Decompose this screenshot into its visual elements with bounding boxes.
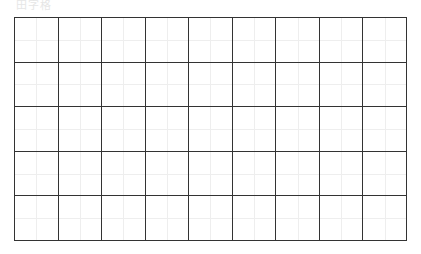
grid-cell (233, 18, 277, 63)
page-title: 田字格 (16, 0, 52, 12)
grid-cell (363, 152, 407, 197)
grid-cell (146, 196, 190, 241)
grid-cell (189, 107, 233, 152)
grid-cell (189, 63, 233, 108)
grid-cell (15, 196, 59, 241)
grid-cell (59, 196, 103, 241)
grid-cell (189, 18, 233, 63)
grid-cell (189, 196, 233, 241)
grid-cell (276, 152, 320, 197)
grid-cell (146, 107, 190, 152)
grid-cell (15, 152, 59, 197)
grid-cell (320, 107, 364, 152)
grid-cell (15, 107, 59, 152)
grid-cell (15, 18, 59, 63)
grid-cell (320, 18, 364, 63)
grid-cell (320, 196, 364, 241)
grid-cell (59, 63, 103, 108)
grid-cell (102, 107, 146, 152)
grid-cell (320, 63, 364, 108)
grid-cell (233, 107, 277, 152)
tianzige-writing-grid (14, 17, 407, 241)
grid-cell (233, 196, 277, 241)
grid-cell (59, 152, 103, 197)
grid-cell (102, 152, 146, 197)
grid-cell (102, 63, 146, 108)
grid-cell (146, 63, 190, 108)
grid-cell (102, 196, 146, 241)
grid-cell (363, 18, 407, 63)
grid-cell (233, 63, 277, 108)
grid-cell (59, 18, 103, 63)
grid-cell (363, 107, 407, 152)
grid-cell (15, 63, 59, 108)
grid-cell (233, 152, 277, 197)
grid-cell (276, 107, 320, 152)
grid-cell (276, 18, 320, 63)
grid-cell (59, 107, 103, 152)
grid-cell (276, 196, 320, 241)
grid-cell (276, 63, 320, 108)
grid-cell (363, 63, 407, 108)
grid-cell (363, 196, 407, 241)
grid-cell (189, 152, 233, 197)
grid-cell (146, 18, 190, 63)
grid-cell (320, 152, 364, 197)
grid-cell (102, 18, 146, 63)
grid-cell (146, 152, 190, 197)
